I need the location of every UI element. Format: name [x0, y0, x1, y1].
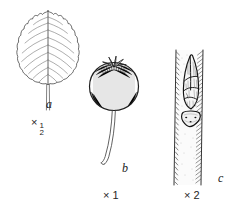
figure-label-c: c — [218, 172, 223, 184]
figure-b-fruit — [78, 52, 150, 167]
figure-scale-a: ×12 — [31, 117, 44, 137]
scale-times-a: × — [31, 116, 37, 128]
figure-scale-c: × 2 — [184, 190, 200, 201]
leaf-veins-left — [22, 17, 48, 82]
figure-scale-b: × 1 — [103, 190, 119, 201]
figure-label-a: a — [46, 98, 52, 110]
illustration-plate: a ×12 — [0, 0, 242, 220]
fruit-stalk — [101, 110, 115, 164]
figure-c-twig — [163, 50, 219, 185]
figure-a-leaf — [8, 2, 88, 112]
scale-fraction-a: 12 — [39, 122, 43, 137]
figure-label-b: b — [122, 162, 128, 174]
leaf-veins-right — [48, 17, 74, 82]
